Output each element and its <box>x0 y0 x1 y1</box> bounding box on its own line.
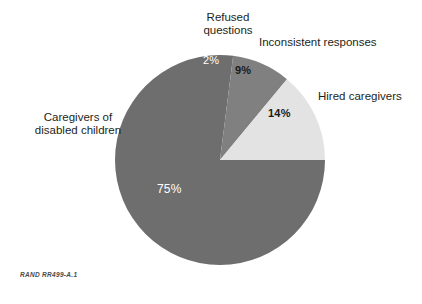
figure-id-caption: RAND RR499-A.1 <box>20 271 77 278</box>
category-label-inconsistent: Inconsistent responses <box>259 36 377 49</box>
category-label-hired: Hired caregivers <box>318 90 402 103</box>
category-label-refused-line-1: Refused <box>186 11 270 24</box>
category-label-refused-line-2: questions <box>186 24 270 37</box>
category-label-refused: Refused questions <box>186 11 270 37</box>
pie-chart-figure: 2% 9% 14% 75% Refused questions Inconsis… <box>0 0 422 304</box>
category-label-caregivers: Caregivers of disabled children <box>22 111 134 137</box>
category-label-inconsistent-line-1: Inconsistent responses <box>259 36 377 49</box>
category-label-caregivers-line-2: disabled children <box>22 124 134 137</box>
category-label-hired-line-1: Hired caregivers <box>318 90 402 103</box>
slice-value-refused: 2% <box>203 55 219 66</box>
slice-value-inconsistent: 9% <box>235 65 251 76</box>
slice-value-caregivers: 75% <box>157 183 182 195</box>
category-label-caregivers-line-1: Caregivers of <box>22 111 134 124</box>
pie-chart-canvas <box>115 55 325 265</box>
pie-svg <box>115 55 325 265</box>
slice-value-hired: 14% <box>268 108 291 119</box>
